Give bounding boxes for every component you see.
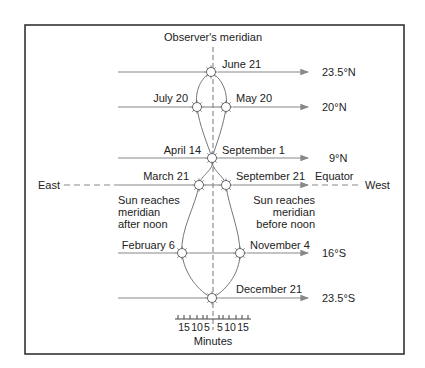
date-label: July 20 <box>153 92 188 104</box>
sun-icon <box>206 152 219 165</box>
axis-tick-label: 10 <box>191 321 203 333</box>
date-label: September 1 <box>222 144 285 156</box>
note-before-noon: Sun reaches meridian before noon <box>253 194 315 230</box>
sun-icon <box>191 101 204 114</box>
date-label: June 21 <box>222 58 261 70</box>
east-label: East <box>38 179 60 191</box>
date-label: November 4 <box>250 239 310 251</box>
sun-icon <box>220 179 233 192</box>
note-after-noon: Sun reaches meridian after noon <box>118 194 180 230</box>
sun-icon <box>193 179 206 192</box>
sun-icon <box>234 247 247 260</box>
svg-text:after noon: after noon <box>118 218 168 230</box>
date-label: March 21 <box>143 170 189 182</box>
axis-tick-label: 15 <box>237 321 249 333</box>
axis-tick-label: 15 <box>178 321 190 333</box>
date-label: May 20 <box>236 92 272 104</box>
date-label: April 14 <box>164 144 201 156</box>
analemma-diagram: Observer's meridian East West June 21 Ju… <box>0 0 425 368</box>
sun-icon <box>206 292 219 305</box>
meridian-title: Observer's meridian <box>164 31 262 43</box>
axis-label: Minutes <box>194 335 233 347</box>
latitude-label: Equator <box>315 170 354 182</box>
latitude-label: 23.5°S <box>322 292 355 304</box>
axis-tick-label: 5 <box>217 321 223 333</box>
latitude-label: 23.5°N <box>322 66 356 78</box>
axis-tick-label: 5 <box>204 321 210 333</box>
axis-tick-label: 10 <box>224 321 236 333</box>
latitude-label: 20°N <box>322 101 347 113</box>
date-label: September 21 <box>236 170 305 182</box>
svg-text:meridian: meridian <box>273 206 315 218</box>
west-label: West <box>365 179 390 191</box>
sun-icon <box>176 247 189 260</box>
date-label: February 6 <box>122 239 175 251</box>
svg-text:before noon: before noon <box>256 218 315 230</box>
svg-text:Sun reaches: Sun reaches <box>253 194 315 206</box>
sun-icon <box>220 101 233 114</box>
date-label: December 21 <box>236 283 302 295</box>
latitude-label: 16°S <box>322 247 346 259</box>
svg-text:Sun reaches: Sun reaches <box>118 194 180 206</box>
sun-icon <box>205 66 218 79</box>
latitude-label: 9°N <box>329 152 348 164</box>
svg-text:meridian: meridian <box>118 206 160 218</box>
